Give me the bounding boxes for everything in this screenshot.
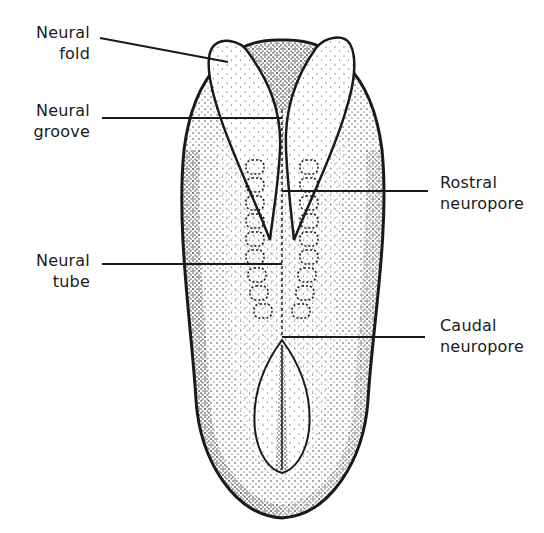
label-rostral-neuropore-line2: neuropore — [440, 193, 544, 214]
label-neural-fold-line1: Neural — [0, 22, 90, 43]
label-neural-groove: Neural groove — [0, 100, 90, 142]
label-caudal-neuropore: Caudal neuropore — [440, 315, 544, 357]
label-neural-fold: Neural fold — [0, 22, 90, 64]
label-neural-tube-line2: tube — [0, 271, 90, 292]
label-caudal-neuropore-line1: Caudal — [440, 315, 544, 336]
label-caudal-neuropore-line2: neuropore — [440, 336, 544, 357]
label-rostral-neuropore: Rostral neuropore — [440, 172, 544, 214]
label-neural-tube: Neural tube — [0, 250, 90, 292]
leader-neural-fold — [100, 38, 228, 62]
label-neural-fold-line2: fold — [0, 43, 90, 64]
label-neural-tube-line1: Neural — [0, 250, 90, 271]
label-rostral-neuropore-line1: Rostral — [440, 172, 544, 193]
label-neural-groove-line2: groove — [0, 121, 90, 142]
label-neural-groove-line1: Neural — [0, 100, 90, 121]
